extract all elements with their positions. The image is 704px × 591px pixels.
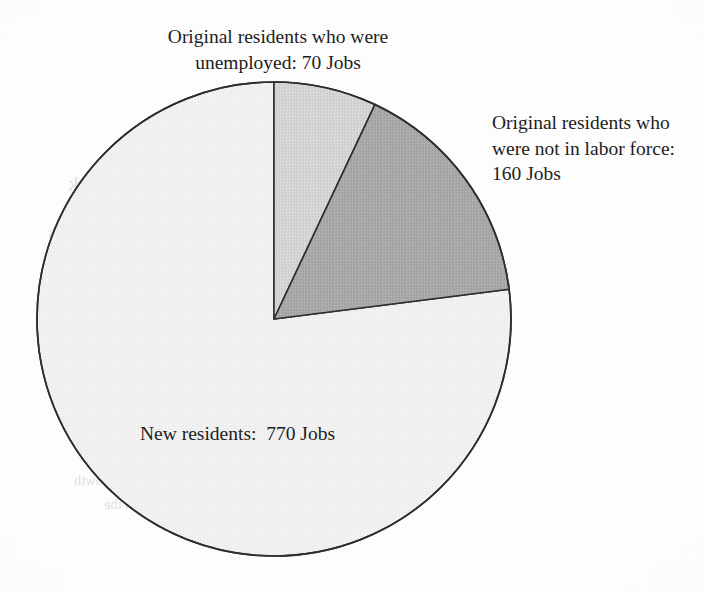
pie-chart-figure: period of the 1960s Transformations Manu… <box>0 0 704 591</box>
slice-label-original-residents-not-in-labor-force: Original residents who were not in labor… <box>492 110 675 187</box>
pie-plate <box>0 0 704 591</box>
slice-label-original-residents-unemployed: Original residents who were unemployed: … <box>168 24 388 75</box>
slice-label-new-residents: New residents: 770 Jobs <box>140 421 335 447</box>
pie-chart <box>0 0 704 591</box>
